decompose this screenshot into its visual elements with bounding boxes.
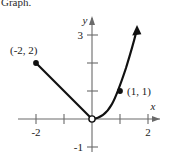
series-right-branch [92, 25, 141, 119]
y-tick-label--1: -1 [74, 141, 83, 153]
y-axis-arrowhead [89, 16, 95, 25]
y-tick-label-3: 3 [78, 29, 84, 41]
left-branch-endpoint-dot [33, 60, 39, 66]
left-branch-segment [36, 63, 92, 119]
right-branch-arrowhead [132, 25, 141, 35]
graph-plot: -2 2 3 -1 x y (-2, 2) (1, 1) [0, 0, 173, 159]
annotation-left-point: (-2, 2) [10, 44, 38, 57]
right-branch-curve [92, 33, 136, 119]
annotation-right-point: (1, 1) [127, 85, 151, 98]
x-tick-label-2: 2 [145, 126, 151, 138]
y-axis-label: y [82, 14, 88, 26]
origin-open-circle [89, 116, 95, 122]
figure-root: Graph. -2 2 [0, 0, 173, 159]
series-left-branch [33, 60, 92, 119]
x-tick-label--2: -2 [31, 126, 40, 138]
x-axis-label: x [150, 100, 156, 112]
x-axis-arrowhead [152, 116, 160, 122]
right-branch-point-dot [117, 88, 123, 94]
